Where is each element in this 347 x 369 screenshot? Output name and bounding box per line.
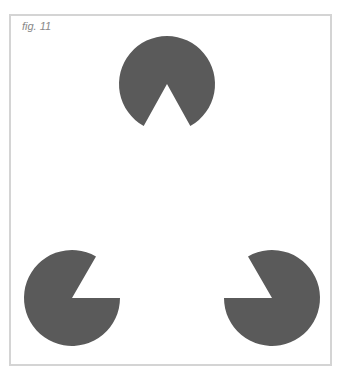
kanizsa-triangle-illusion xyxy=(0,0,347,369)
pacman-bottom-left-shape xyxy=(24,250,120,346)
pacman-bottom-right-shape xyxy=(224,250,320,346)
pacman-top-shape xyxy=(119,36,215,126)
